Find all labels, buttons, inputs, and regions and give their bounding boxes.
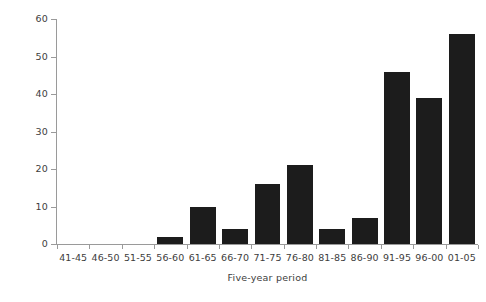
x-axis-tick: [348, 245, 349, 249]
y-axis-tick: [51, 207, 56, 208]
x-axis-tick-label: 91-95: [381, 252, 413, 263]
x-axis-tick: [219, 245, 220, 249]
x-axis-tick: [446, 245, 447, 249]
x-axis-tick-label: 76-80: [284, 252, 316, 263]
x-axis-tick-label: 81-85: [316, 252, 348, 263]
bar: [222, 229, 248, 244]
x-axis-tick-label: 46-50: [89, 252, 121, 263]
bar: [449, 34, 475, 244]
x-axis-tick-label: 56-60: [154, 252, 186, 263]
x-axis-tick-label: 61-65: [187, 252, 219, 263]
x-axis-tick-label: 66-70: [219, 252, 251, 263]
x-axis-tick: [478, 245, 479, 249]
bar: [287, 165, 313, 244]
x-axis-tick: [381, 245, 382, 249]
y-axis-tick: [51, 19, 56, 20]
x-axis-tick: [89, 245, 90, 249]
x-axis-tick-label: 86-90: [348, 252, 380, 263]
y-axis-tick: [51, 132, 56, 133]
x-axis-tick-label: 96-00: [413, 252, 445, 263]
x-axis-tick: [316, 245, 317, 249]
x-axis-tick: [122, 245, 123, 249]
bar: [190, 207, 216, 245]
x-axis-tick-label: 41-45: [57, 252, 89, 263]
bar-chart-figure: Number of birds 0102030405060 41-4546-50…: [0, 0, 486, 302]
y-axis-tick: [51, 169, 56, 170]
y-axis-tick-label: 60: [8, 13, 48, 24]
y-axis-tick-label: 20: [8, 163, 48, 174]
x-axis-line: [56, 244, 478, 245]
x-axis-tick-label: 01-05: [446, 252, 478, 263]
bar: [157, 237, 183, 245]
y-axis-tick-label: 30: [8, 126, 48, 137]
y-axis-tick: [51, 244, 56, 245]
y-axis-tick-label: 50: [8, 51, 48, 62]
y-axis-tick-label: 10: [8, 201, 48, 212]
x-axis-tick: [251, 245, 252, 249]
x-axis-tick-label: 51-55: [122, 252, 154, 263]
y-axis-tick-label: 40: [8, 88, 48, 99]
x-axis-tick: [413, 245, 414, 249]
plot-area: [57, 19, 478, 244]
y-axis-tick: [51, 94, 56, 95]
x-axis-tick: [187, 245, 188, 249]
x-axis-tick: [57, 245, 58, 249]
bar: [352, 218, 378, 244]
x-axis-tick: [284, 245, 285, 249]
bar: [384, 72, 410, 245]
bar: [416, 98, 442, 244]
y-axis-tick-label: 0: [8, 238, 48, 249]
bar: [255, 184, 281, 244]
x-axis-tick: [154, 245, 155, 249]
y-axis-tick: [51, 57, 56, 58]
x-axis-tick-label: 71-75: [251, 252, 283, 263]
bar: [319, 229, 345, 244]
x-axis-title: Five-year period: [57, 272, 478, 283]
